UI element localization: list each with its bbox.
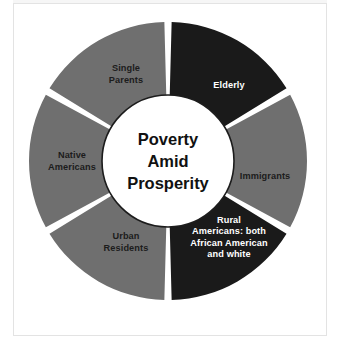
poverty-amid-prosperity-diagram: PovertyAmidProsperity ElderlyImmigrantsR… (0, 0, 337, 355)
donut-chart-svg: PovertyAmidProsperity ElderlyImmigrantsR… (0, 0, 337, 355)
segment-label-single-parents: SingleParents (109, 63, 143, 85)
segment-label-elderly: Elderly (213, 80, 245, 90)
segment-label-immigrants: Immigrants (240, 171, 291, 181)
page-canvas: PovertyAmidProsperity ElderlyImmigrantsR… (0, 0, 337, 355)
